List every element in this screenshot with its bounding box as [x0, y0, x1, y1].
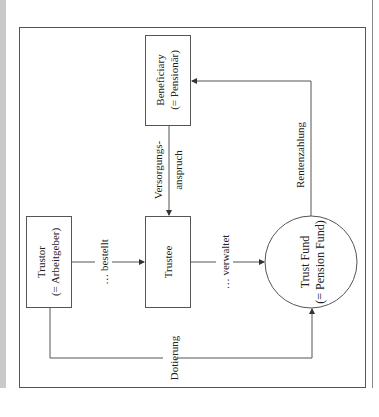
versorgungsanspruch-label-1: Versorgungs-	[152, 140, 164, 199]
beneficiary-label: Beneficiary	[154, 54, 166, 106]
dotierung-label: Dotierung	[168, 335, 180, 380]
trust-fund-label: Trust Fund	[298, 236, 312, 289]
verwaltet-label: … verwaltet	[219, 235, 231, 290]
trustor-sublabel: (= Arbeitgeber)	[49, 228, 62, 297]
beneficiary-node: Beneficiary (= Pensionär)	[146, 36, 191, 126]
trustee-node: Trustee	[146, 217, 191, 308]
trustor-label: Trustor	[35, 246, 47, 278]
bestellt-label: … bestellt	[98, 239, 110, 285]
trust-fund-sublabel: (= Pension Fund)	[313, 220, 327, 303]
edge-versorgungsanspruch: Versorgungs- anspruch	[152, 126, 184, 215]
edge-dotierung: Dotierung	[50, 308, 312, 380]
rentenzahlung-label: Rentenzahlung	[294, 122, 306, 188]
trust-diagram: Beneficiary (= Pensionär) Trustor (= Arb…	[0, 0, 379, 417]
beneficiary-sublabel: (= Pensionär)	[168, 50, 181, 110]
trustee-label: Trustee	[162, 246, 174, 279]
edge-rentenzahlung: Rentenzahlung	[192, 81, 311, 216]
trust-fund-node: Trust Fund (= Pension Fund)	[265, 216, 357, 308]
edge-bestellt: … bestellt	[72, 239, 144, 285]
versorgungsanspruch-label-2: anspruch	[172, 150, 184, 190]
trustor-node: Trustor (= Arbeitgeber)	[27, 217, 72, 308]
edge-verwaltet: … verwaltet	[191, 235, 264, 290]
